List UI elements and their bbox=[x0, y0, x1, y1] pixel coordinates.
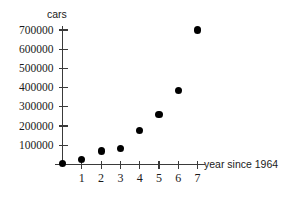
x-axis-tick-label: 4 bbox=[130, 172, 150, 185]
data-point bbox=[117, 145, 124, 152]
y-axis-title: cars bbox=[47, 8, 67, 20]
y-axis-tick bbox=[59, 49, 68, 50]
x-axis-title: year since 1964 bbox=[204, 158, 278, 170]
x-axis-tick-label: 6 bbox=[168, 172, 188, 185]
x-axis-tick bbox=[101, 161, 102, 169]
data-point bbox=[194, 26, 201, 33]
y-axis-tick bbox=[59, 125, 68, 126]
y-axis-tick-label: 400000 bbox=[0, 81, 54, 93]
y-axis-tick-label: 200000 bbox=[0, 120, 54, 132]
x-axis-tick-label: 7 bbox=[188, 172, 208, 185]
y-axis-tick-label: 700000 bbox=[0, 24, 54, 36]
y-axis-tick-label: 600000 bbox=[0, 43, 54, 55]
y-axis-tick bbox=[59, 87, 68, 88]
y-axis-tick-label: 100000 bbox=[0, 139, 54, 151]
scatter-plot: cars year since 1964 1000002000003000004… bbox=[0, 0, 296, 199]
x-axis-tick bbox=[120, 161, 121, 169]
y-axis-tick bbox=[59, 68, 68, 69]
x-axis-tick-label: 2 bbox=[91, 172, 111, 185]
y-axis-tick bbox=[59, 106, 68, 107]
data-point bbox=[78, 156, 85, 163]
y-axis-tick bbox=[59, 145, 68, 146]
data-point bbox=[175, 87, 182, 94]
data-point bbox=[98, 147, 105, 154]
x-axis-tick-label: 1 bbox=[72, 172, 92, 185]
x-axis-line bbox=[55, 164, 205, 165]
x-axis-tick bbox=[197, 161, 198, 169]
x-axis-tick-label: 3 bbox=[110, 172, 130, 185]
x-axis-tick-label: 5 bbox=[149, 172, 169, 185]
y-axis-tick-label: 500000 bbox=[0, 62, 54, 74]
y-axis-tick bbox=[59, 29, 68, 30]
x-axis-tick bbox=[178, 161, 179, 169]
data-point bbox=[155, 111, 162, 118]
data-point bbox=[136, 127, 143, 134]
y-axis-tick-label: 300000 bbox=[0, 100, 54, 112]
x-axis-tick bbox=[158, 161, 159, 169]
x-axis-tick bbox=[139, 161, 140, 169]
data-point bbox=[59, 160, 66, 167]
